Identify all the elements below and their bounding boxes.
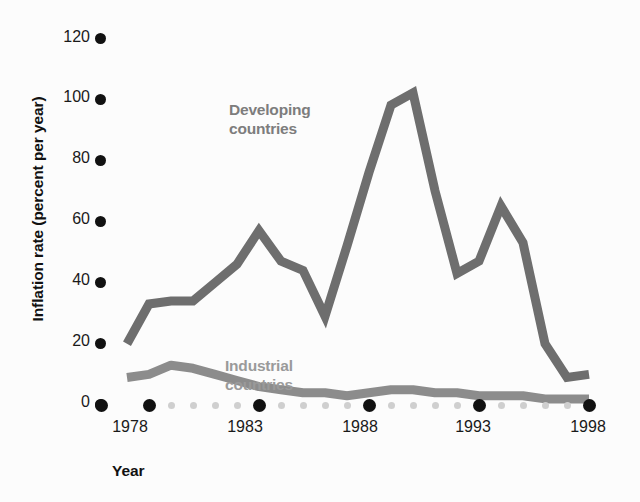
x-tick-dot-1995 bbox=[520, 402, 527, 409]
x-tick-label-1983: 1983 bbox=[210, 418, 280, 436]
x-tick-label-1978: 1978 bbox=[95, 418, 165, 436]
x-tick-dot-1990 bbox=[410, 402, 417, 409]
x-tick-dot-1987 bbox=[344, 402, 351, 409]
x-tick-dot-1996 bbox=[542, 402, 549, 409]
x-tick-dot-1980 bbox=[190, 402, 197, 409]
x-tick-dot-1988 bbox=[363, 399, 376, 412]
x-tick-dot-1984 bbox=[278, 402, 285, 409]
x-tick-dot-1978 bbox=[143, 399, 156, 412]
x-tick-dot-1981 bbox=[212, 402, 219, 409]
x-tick-dot-1985 bbox=[300, 402, 307, 409]
series-line-industrial bbox=[127, 365, 589, 399]
series-annotation-developing: Developing countries bbox=[229, 101, 311, 139]
x-tick-dot-1986 bbox=[322, 402, 329, 409]
x-tick-dot-1997 bbox=[564, 402, 571, 409]
inflation-rate-chart: Inflation rate (percent per year) 120 10… bbox=[0, 0, 640, 502]
x-tick-dot-1979 bbox=[168, 402, 175, 409]
series-line-developing bbox=[127, 93, 589, 378]
x-tick-dot-1982 bbox=[234, 402, 241, 409]
x-tick-dot-1991 bbox=[432, 402, 439, 409]
x-tick-dot-1989 bbox=[388, 402, 395, 409]
x-axis-origin-dot bbox=[95, 399, 108, 412]
x-tick-label-1988: 1988 bbox=[325, 418, 395, 436]
x-tick-label-1993: 1993 bbox=[438, 418, 508, 436]
x-tick-dot-1992 bbox=[454, 402, 461, 409]
x-tick-dot-1994 bbox=[498, 402, 505, 409]
x-tick-label-1998: 1998 bbox=[553, 418, 623, 436]
x-axis-title: Year bbox=[112, 462, 144, 480]
series-annotation-industrial: Industrial countries bbox=[225, 357, 293, 395]
x-tick-dot-1993 bbox=[473, 399, 486, 412]
x-tick-dot-1998 bbox=[583, 399, 596, 412]
x-tick-dot-1983 bbox=[253, 399, 266, 412]
